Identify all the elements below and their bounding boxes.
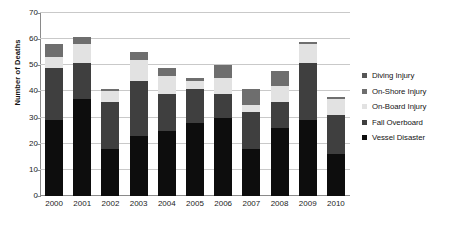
y-tick-label-60: 60 xyxy=(10,35,38,43)
bar-segment-2002-fall-overboard[interactable] xyxy=(101,102,119,149)
x-tick-label-2003: 2003 xyxy=(125,200,153,208)
bar-group-2003[interactable] xyxy=(130,13,148,196)
bar-segment-2000-fall-overboard[interactable] xyxy=(45,68,63,120)
bar-segment-2000-vessel-disaster[interactable] xyxy=(45,120,63,196)
legend-item-vessel-disaster[interactable]: Vessel Disaster xyxy=(362,130,454,146)
legend-swatch-icon xyxy=(362,135,367,140)
y-tick-label-0: 0 xyxy=(10,192,38,200)
bar-segment-2003-fall-overboard[interactable] xyxy=(130,81,148,136)
bar-segment-2001-vessel-disaster[interactable] xyxy=(73,99,91,196)
bar-segment-2008-on-shore-injury[interactable] xyxy=(271,71,289,87)
y-tick-mark-0 xyxy=(36,196,40,197)
bar-group-2010[interactable] xyxy=(327,13,345,196)
bar-segment-2001-on-board-injury[interactable] xyxy=(73,44,91,62)
bar-segment-2010-on-board-injury[interactable] xyxy=(327,99,345,115)
bar-group-2009[interactable] xyxy=(299,13,317,196)
bar-segment-2006-fall-overboard[interactable] xyxy=(214,94,232,118)
y-tick-label-50: 50 xyxy=(10,61,38,69)
bar-segment-2004-on-shore-injury[interactable] xyxy=(158,68,176,76)
bar-segment-2008-fall-overboard[interactable] xyxy=(271,102,289,128)
bar-segment-2001-fall-overboard[interactable] xyxy=(73,63,91,100)
bar-segment-2001-on-shore-injury[interactable] xyxy=(73,37,91,45)
bar-segment-2009-vessel-disaster[interactable] xyxy=(299,120,317,196)
bar-segment-2007-on-board-injury[interactable] xyxy=(242,105,260,113)
y-tick-label-70: 70 xyxy=(10,9,38,17)
bar-segment-2005-vessel-disaster[interactable] xyxy=(186,123,204,196)
bar-group-2004[interactable] xyxy=(158,13,176,196)
bar-segment-2006-on-shore-injury[interactable] xyxy=(214,65,232,78)
legend-swatch-icon xyxy=(362,120,367,125)
bar-segment-2005-on-board-injury[interactable] xyxy=(186,81,204,89)
legend-swatch-icon xyxy=(362,73,367,78)
bar-segment-2003-vessel-disaster[interactable] xyxy=(130,136,148,196)
stacked-bar-chart: Number of Deaths 706050403020100 2000200… xyxy=(0,0,454,226)
x-tick-label-2000: 2000 xyxy=(40,200,68,208)
legend-label: On-Board Injury xyxy=(372,102,426,111)
bar-group-2000[interactable] xyxy=(45,13,63,196)
bar-group-2001[interactable] xyxy=(73,13,91,196)
bar-group-2008[interactable] xyxy=(271,13,289,196)
x-tick-label-2007: 2007 xyxy=(237,200,265,208)
bar-segment-2009-fall-overboard[interactable] xyxy=(299,63,317,121)
legend-item-on-shore-injury[interactable]: On-Shore Injury xyxy=(362,84,454,100)
bar-segment-2010-on-shore-injury[interactable] xyxy=(327,97,345,100)
bar-series-container xyxy=(40,13,350,196)
bar-segment-2006-on-board-injury[interactable] xyxy=(214,78,232,94)
bar-segment-2009-on-shore-injury[interactable] xyxy=(299,42,317,45)
bar-segment-2007-vessel-disaster[interactable] xyxy=(242,149,260,196)
bar-segment-2003-on-shore-injury[interactable] xyxy=(130,52,148,60)
bar-segment-2005-on-shore-injury[interactable] xyxy=(186,78,204,81)
bar-segment-2004-on-board-injury[interactable] xyxy=(158,76,176,94)
bar-segment-2000-on-shore-injury[interactable] xyxy=(45,44,63,57)
x-tick-label-2001: 2001 xyxy=(68,200,96,208)
x-tick-label-2002: 2002 xyxy=(96,200,124,208)
y-tick-label-20: 20 xyxy=(10,140,38,148)
bar-segment-2002-vessel-disaster[interactable] xyxy=(101,149,119,196)
x-tick-label-2009: 2009 xyxy=(294,200,322,208)
x-tick-label-2010: 2010 xyxy=(322,200,350,208)
legend-label: Fall Overboard xyxy=(372,118,423,127)
x-tick-label-2004: 2004 xyxy=(153,200,181,208)
bar-group-2005[interactable] xyxy=(186,13,204,196)
legend-item-diving-injury[interactable]: Diving Injury xyxy=(362,68,454,84)
plot-area xyxy=(40,13,350,196)
y-axis-title: Number of Deaths xyxy=(13,18,22,128)
x-tick-label-2006: 2006 xyxy=(209,200,237,208)
x-tick-label-2005: 2005 xyxy=(181,200,209,208)
bar-segment-2004-fall-overboard[interactable] xyxy=(158,94,176,131)
legend-label: On-Shore Injury xyxy=(372,87,426,96)
y-tick-label-40: 40 xyxy=(10,87,38,95)
legend-item-fall-overboard[interactable]: Fall Overboard xyxy=(362,115,454,131)
bar-segment-2009-on-board-injury[interactable] xyxy=(299,44,317,62)
y-tick-label-30: 30 xyxy=(10,114,38,122)
bar-segment-2007-on-shore-injury[interactable] xyxy=(242,89,260,105)
bar-segment-2010-vessel-disaster[interactable] xyxy=(327,154,345,196)
bar-segment-2006-vessel-disaster[interactable] xyxy=(214,118,232,196)
bar-segment-2003-on-board-injury[interactable] xyxy=(130,60,148,81)
bar-group-2007[interactable] xyxy=(242,13,260,196)
y-tick-label-10: 10 xyxy=(10,166,38,174)
bar-segment-2008-vessel-disaster[interactable] xyxy=(271,128,289,196)
bar-segment-2000-on-board-injury[interactable] xyxy=(45,57,63,67)
bar-segment-2005-fall-overboard[interactable] xyxy=(186,89,204,123)
legend-swatch-icon xyxy=(362,104,367,109)
bar-segment-2002-on-shore-injury[interactable] xyxy=(101,89,119,92)
chart-legend: Diving InjuryOn-Shore InjuryOn-Board Inj… xyxy=(362,68,454,146)
bar-group-2006[interactable] xyxy=(214,13,232,196)
bar-segment-2007-fall-overboard[interactable] xyxy=(242,112,260,149)
bar-segment-2002-on-board-injury[interactable] xyxy=(101,91,119,101)
bar-segment-2010-fall-overboard[interactable] xyxy=(327,115,345,154)
legend-swatch-icon xyxy=(362,89,367,94)
legend-item-on-board-injury[interactable]: On-Board Injury xyxy=(362,99,454,115)
legend-label: Vessel Disaster xyxy=(372,133,425,142)
bar-segment-2004-vessel-disaster[interactable] xyxy=(158,131,176,196)
bar-segment-2008-on-board-injury[interactable] xyxy=(271,86,289,102)
x-tick-label-2008: 2008 xyxy=(265,200,293,208)
legend-label: Diving Injury xyxy=(372,71,414,80)
bar-group-2002[interactable] xyxy=(101,13,119,196)
